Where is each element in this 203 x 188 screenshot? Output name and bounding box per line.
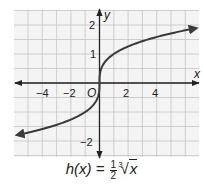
- x-tick-4: 4: [152, 87, 158, 99]
- x-axis-label: x: [193, 67, 201, 81]
- x-tick-2: 2: [123, 87, 129, 99]
- function-graph: x y O −4 −2 2 4 2 1 −2: [0, 0, 203, 160]
- x-tick-minus-4: −4: [36, 87, 49, 99]
- y-axis-label: y: [103, 8, 111, 22]
- caption-fraction: 12: [110, 160, 118, 181]
- y-tick-minus-2: −2: [80, 136, 93, 148]
- y-tick-1: 1: [90, 48, 96, 60]
- fraction-denominator: 2: [110, 171, 118, 181]
- y-tick-2: 2: [89, 19, 95, 31]
- function-caption: h(x) = 123√x: [0, 160, 203, 181]
- radical-sign: √: [121, 160, 129, 177]
- x-tick-minus-2: −2: [63, 87, 76, 99]
- radicand: x: [129, 159, 138, 177]
- caption-function-name: h(x) =: [66, 160, 109, 177]
- origin-label: O: [87, 86, 96, 100]
